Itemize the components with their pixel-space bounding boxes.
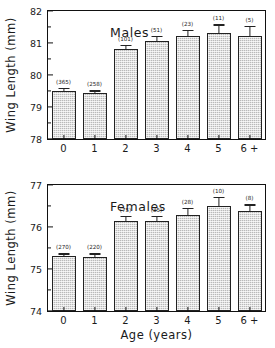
x-tick-mark xyxy=(249,135,250,139)
error-bar xyxy=(218,24,219,33)
bar-slot: (35)3 xyxy=(145,185,169,311)
bar-slot: (220)1 xyxy=(83,185,107,311)
bar xyxy=(238,36,262,139)
x-tick-mark xyxy=(94,307,95,311)
x-tick-mark xyxy=(94,135,95,139)
bar-slot: (23)4 xyxy=(176,11,200,139)
bar xyxy=(207,33,231,139)
bar-slot: (101)2 xyxy=(114,11,138,139)
bar xyxy=(176,36,200,139)
bar xyxy=(114,221,138,311)
x-tick-label: 6 + xyxy=(241,315,259,326)
x-tick-mark xyxy=(125,135,126,139)
x-tick-mark xyxy=(187,307,188,311)
x-tick-mark xyxy=(156,307,157,311)
bar-slot: (270)0 xyxy=(52,185,76,311)
x-tick-label: 2 xyxy=(122,315,128,326)
y-tick-label: 81 xyxy=(30,38,42,49)
plot-area-females: Females 74757677 (270)0(220)1(75)2(35)3(… xyxy=(47,184,266,312)
x-tick-label: 1 xyxy=(91,143,97,154)
y-tick-label: 74 xyxy=(30,306,42,317)
y-tick-label: 77 xyxy=(30,180,42,191)
x-tick-label: 3 xyxy=(153,315,159,326)
panel-males: Wing Length (mm) Males 7879808182 (365)0… xyxy=(0,2,275,170)
sample-size-label: (10) xyxy=(213,188,224,194)
sample-size-label: (35) xyxy=(151,207,162,213)
bar xyxy=(83,93,107,139)
error-bar xyxy=(249,26,250,36)
bar xyxy=(176,215,200,311)
y-tick-label: 76 xyxy=(30,222,42,233)
sample-size-label: (75) xyxy=(120,207,131,213)
error-bar-cap xyxy=(244,26,255,27)
error-bar-cap xyxy=(182,30,193,31)
sample-size-label: (5) xyxy=(246,17,254,23)
sample-size-label: (270) xyxy=(56,244,71,250)
bar-slot: (75)2 xyxy=(114,185,138,311)
bar-group-females: (270)0(220)1(75)2(35)3(28)4(10)5(8)6 + xyxy=(48,185,265,311)
sample-size-label: (101) xyxy=(118,36,133,42)
error-bar-cap xyxy=(244,204,255,205)
bar-slot: (365)0 xyxy=(52,11,76,139)
error-bar-cap xyxy=(213,24,224,25)
bar-slot: (258)1 xyxy=(83,11,107,139)
x-tick-label: 4 xyxy=(184,143,190,154)
bar xyxy=(207,206,231,311)
bar-slot: (8)6 + xyxy=(238,185,262,311)
bar xyxy=(145,41,169,139)
x-axis-label: Age (years) xyxy=(47,328,266,342)
bar xyxy=(83,257,107,311)
sample-size-label: (23) xyxy=(182,21,193,27)
bar-slot: (28)4 xyxy=(176,185,200,311)
bar-slot: (11)5 xyxy=(207,11,231,139)
error-bar-cap xyxy=(182,208,193,209)
y-tick-label: 78 xyxy=(30,134,42,145)
bar xyxy=(52,91,76,139)
bar xyxy=(238,211,262,311)
x-tick-label: 0 xyxy=(60,315,66,326)
x-tick-mark xyxy=(218,135,219,139)
x-tick-mark xyxy=(187,135,188,139)
y-tick-label: 75 xyxy=(30,264,42,275)
y-axis-label-males: Wing Length (mm) xyxy=(4,17,18,132)
y-axis-label-females: Wing Length (mm) xyxy=(4,190,18,305)
x-tick-mark xyxy=(218,307,219,311)
x-tick-mark xyxy=(125,307,126,311)
x-tick-label: 3 xyxy=(153,143,159,154)
y-tick-label: 82 xyxy=(30,6,42,17)
panel-females: Wing Length (mm) Females 74757677 (270)0… xyxy=(0,176,275,348)
figure: Wing Length (mm) Males 7879808182 (365)0… xyxy=(0,0,275,348)
error-bar-cap xyxy=(58,88,69,89)
x-tick-label: 2 xyxy=(122,143,128,154)
error-bar xyxy=(218,197,219,206)
sample-size-label: (51) xyxy=(151,27,162,33)
error-bar-cap xyxy=(58,253,69,254)
bar-group-males: (365)0(258)1(101)2(51)3(23)4(11)5(5)6 + xyxy=(48,11,265,139)
sample-size-label: (365) xyxy=(56,79,71,85)
bar xyxy=(145,221,169,311)
x-tick-mark xyxy=(249,307,250,311)
sample-size-label: (8) xyxy=(246,195,254,201)
sample-size-label: (11) xyxy=(213,15,224,21)
x-tick-mark xyxy=(63,307,64,311)
bar-slot: (51)3 xyxy=(145,11,169,139)
error-bar-cap xyxy=(89,253,100,254)
y-tick-label: 79 xyxy=(30,102,42,113)
bar xyxy=(52,256,76,311)
sample-size-label: (220) xyxy=(87,244,102,250)
sample-size-label: (258) xyxy=(87,81,102,87)
x-tick-label: 0 xyxy=(60,143,66,154)
error-bar-cap xyxy=(213,197,224,198)
y-tick-label: 80 xyxy=(30,70,42,81)
error-bar-cap xyxy=(89,90,100,91)
x-tick-label: 1 xyxy=(91,315,97,326)
x-tick-label: 5 xyxy=(215,143,221,154)
bar-slot: (5)6 + xyxy=(238,11,262,139)
x-tick-label: 4 xyxy=(184,315,190,326)
sample-size-label: (28) xyxy=(182,199,193,205)
error-bar-cap xyxy=(120,45,131,46)
error-bar-cap xyxy=(151,36,162,37)
error-bar-cap xyxy=(120,216,131,217)
x-tick-label: 6 + xyxy=(241,143,259,154)
bar xyxy=(114,49,138,139)
